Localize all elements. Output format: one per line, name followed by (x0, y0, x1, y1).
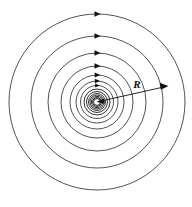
field-direction-arrowhead-6 (95, 79, 100, 83)
field-direction-arrowhead-2 (95, 33, 101, 38)
field-diagram-canvas: R (0, 0, 192, 207)
field-direction-arrowhead-5 (95, 73, 101, 78)
field-direction-arrowhead-3 (95, 50, 101, 55)
field-direction-arrowhead-group (95, 11, 101, 87)
field-direction-arrowhead-1 (95, 11, 101, 16)
radius-label: R (132, 78, 140, 90)
radius-arrow-head-outer (160, 83, 169, 90)
field-direction-arrowhead-4 (95, 63, 101, 68)
field-diagram-svg: R (0, 0, 192, 207)
field-direction-arrowhead-7 (95, 84, 100, 88)
